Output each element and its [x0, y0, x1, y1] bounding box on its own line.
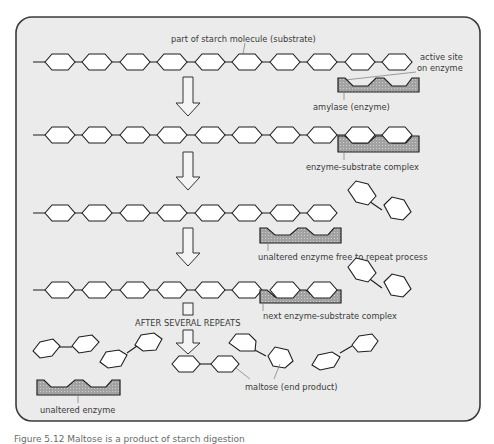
figure-caption: Figure 5.12 Maltose is a product of star… [14, 434, 245, 444]
unaltered-enzyme-label: unaltered enzyme [40, 405, 115, 415]
starch-label: part of starch molecule (substrate) [171, 34, 316, 44]
active-site-label-2: on enzyme [417, 63, 463, 73]
amylase-label: amylase (enzyme) [313, 102, 390, 112]
complex-label: enzyme-substrate complex [306, 162, 419, 172]
after-repeats-label: AFTER SEVERAL REPEATS [135, 318, 240, 328]
active-site-label: active site [420, 52, 463, 62]
arrow-stub [183, 303, 193, 315]
free-enzyme-label: unaltered enzyme free to repeat process [258, 252, 427, 262]
maltose-label: maltose (end product) [245, 382, 338, 392]
next-complex-label: next enzyme-substrate complex [263, 311, 397, 321]
